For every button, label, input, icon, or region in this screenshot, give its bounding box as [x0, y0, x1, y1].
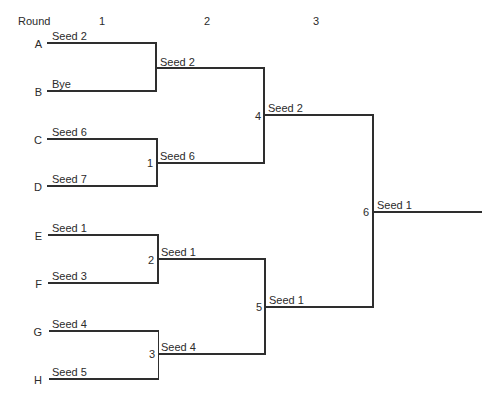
slot-label: A: [30, 38, 42, 50]
bracket-line: [47, 185, 158, 187]
match-number: 1: [143, 157, 153, 169]
slot-label: C: [30, 134, 42, 146]
slot-label: E: [30, 230, 42, 242]
round-3-header: 3: [313, 15, 319, 27]
bracket-line: [158, 353, 265, 355]
round-2-header: 2: [204, 15, 210, 27]
winner-label: Seed 1: [161, 246, 196, 258]
slot-label: G: [30, 326, 42, 338]
team-label: Seed 7: [52, 173, 87, 185]
bracket-line: [158, 258, 265, 260]
bracket-line: [48, 234, 159, 236]
match-number: 3: [145, 348, 155, 360]
match-number: 6: [359, 206, 369, 218]
bracket-line: [263, 114, 373, 116]
bracket-line: [372, 211, 482, 213]
team-label: Seed 2: [52, 30, 87, 42]
bracket-line: [157, 162, 265, 164]
bracket-connector: [158, 330, 160, 380]
winner-label: Seed 6: [160, 150, 195, 162]
bracket-line: [48, 282, 159, 284]
team-label: Seed 4: [52, 318, 87, 330]
winner-label: Seed 2: [268, 102, 303, 114]
winner-label: Seed 1: [269, 294, 304, 306]
team-label: Seed 3: [52, 270, 87, 282]
bracket-line: [156, 67, 264, 69]
team-label: Seed 6: [52, 126, 87, 138]
team-label: Seed 5: [52, 366, 87, 378]
match-number: 5: [252, 301, 262, 313]
winner-label: Seed 4: [161, 341, 196, 353]
slot-label: B: [30, 86, 42, 98]
champion-label: Seed 1: [377, 199, 412, 211]
bracket-line: [49, 330, 159, 332]
round-header-label: Round: [18, 15, 50, 27]
slot-label: D: [30, 181, 42, 193]
bracket-line: [49, 378, 159, 380]
match-number: 4: [251, 110, 261, 122]
bracket-line: [264, 306, 374, 308]
team-label: Seed 1: [52, 222, 87, 234]
round-1-header: 1: [99, 15, 105, 27]
bracket-line: [47, 138, 158, 140]
team-label: Bye: [52, 78, 71, 90]
bracket-line: [47, 42, 157, 44]
bracket-line: [47, 90, 157, 92]
match-number: 2: [144, 254, 154, 266]
slot-label: F: [30, 278, 42, 290]
slot-label: H: [30, 374, 42, 386]
